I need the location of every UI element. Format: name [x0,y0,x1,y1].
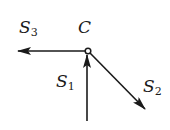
arrow-s3-label-subscript: 3 [31,26,38,39]
arrow-s2-label-subscript: 2 [155,85,162,98]
arrow-s3-label: S3 [19,19,38,38]
arrow-s2 [90,53,145,109]
arrow-s2-label: S2 [143,78,162,97]
node-c-label-text: C [78,17,91,37]
arrow-s2-label-main: S [143,76,155,96]
node-c-label: C [78,19,91,36]
arrow-s3-label-main: S [19,17,31,37]
arrow-s1-label-main: S [56,71,68,91]
arrow-s1-label-subscript: 1 [68,80,75,93]
node-c-circle [85,48,91,54]
arrow-s1-label: S1 [56,73,75,92]
